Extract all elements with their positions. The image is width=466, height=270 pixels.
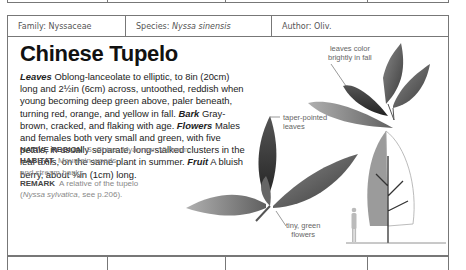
strip-cell (108, 257, 226, 270)
author-value: Oliv. (314, 22, 331, 31)
remark-page-ref: , see p.206). (78, 190, 122, 199)
annotation-line: flowers (286, 230, 320, 239)
habitat-label: HABITAT (20, 156, 54, 165)
taper-annotation: taper-pointed leaves (283, 113, 327, 131)
species-title: Chinese Tupelo (20, 41, 178, 67)
author-cell: Author: Oliv. (272, 16, 448, 36)
annotation-line: taper-pointed (283, 113, 327, 122)
remark-value: A relative of the tupelo (59, 179, 138, 188)
habitat-value-cont: and stream banks. (20, 167, 220, 178)
leaves-term: Leaves (20, 71, 52, 82)
flowers-annotation: tiny, green flowers (286, 221, 320, 239)
family-cell: Family: Nyssaceae (8, 16, 126, 36)
habitat-line: HABITATMountain woods (20, 155, 220, 166)
author-label: Author: (282, 22, 312, 31)
species-label: Species: (136, 22, 169, 31)
annotation-line: tiny, green (286, 221, 320, 230)
strip-cell (226, 257, 368, 270)
human-scale-icon (352, 208, 357, 242)
habitat-value: Mountain woods (58, 156, 116, 165)
native-region-label: NATIVE REGION (20, 145, 83, 154)
strip-cell (8, 0, 108, 2)
species-value: Nyssa sinensis (172, 22, 231, 31)
bark-term: Bark (178, 108, 199, 119)
strip-cell (226, 0, 368, 2)
annotation-line: leaves (283, 122, 327, 131)
strip-cell (368, 257, 448, 270)
next-entry-strip (7, 256, 449, 270)
species-facts: NATIVE REGIONS. China, Myanmar, Vietnam.… (20, 144, 220, 200)
species-entry-card: Family: Nyssaceae Species: Nyssa sinensi… (7, 15, 449, 256)
remark-species-ref: Nyssa sylvatica (23, 190, 78, 199)
strip-cell (8, 257, 108, 270)
native-region-value: S. China, Myanmar, Vietnam. (87, 145, 191, 154)
annotation-line: brightly in fall (328, 53, 372, 62)
species-cell: Species: Nyssa sinensis (126, 16, 272, 36)
remark-line-cont: (Nyssa sylvatica, see p.206). (20, 189, 220, 200)
remark-label: REMARK (20, 179, 55, 188)
strip-cell (368, 0, 448, 2)
fall-color-annotation: leaves color brightly in fall (328, 44, 372, 62)
tree-silhouette-icon (346, 131, 446, 243)
strip-cell (108, 0, 226, 2)
remark-line: REMARKA relative of the tupelo (20, 178, 220, 189)
flowers-term: Flowers (177, 120, 212, 131)
native-region-line: NATIVE REGIONS. China, Myanmar, Vietnam. (20, 144, 220, 155)
previous-entry-strip (7, 0, 449, 3)
family-label: Family: (18, 22, 46, 31)
taxonomy-header: Family: Nyssaceae Species: Nyssa sinensi… (8, 16, 448, 37)
family-value: Nyssaceae (48, 22, 91, 31)
annotation-line: leaves color (328, 44, 372, 53)
